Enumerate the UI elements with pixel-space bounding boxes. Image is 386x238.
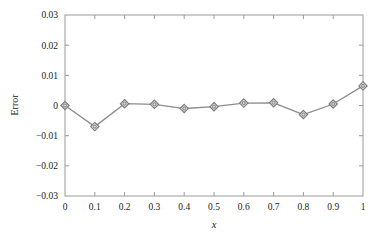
y-tick-label: 0.02 [41,41,58,51]
x-tick-label: 0 [63,202,68,212]
y-tick-label: −0.02 [36,161,58,171]
x-tick-label: 0.4 [178,202,190,212]
y-tick-label: −0.03 [36,191,58,201]
x-tick-label: 0.5 [208,202,220,212]
y-axis-title: Error [9,94,20,116]
x-tick-label: 0.2 [119,202,131,212]
y-tick-label: −0.01 [36,131,58,141]
y-tick-label: 0 [53,101,58,111]
x-tick-label: 0.1 [89,202,101,212]
x-tick-label: 0.9 [327,202,339,212]
x-tick-label: 0.7 [268,202,280,212]
y-tick-label: 0.01 [41,71,58,81]
x-tick-label: 0.3 [148,202,160,212]
x-tick-label: 1 [361,202,366,212]
x-axis-title: x [211,219,217,230]
chart-figure: 0.030.020.010−0.01−0.02−0.03 00.10.20.30… [0,0,386,238]
x-tick-label: 0.8 [297,202,309,212]
x-tick-label: 0.6 [238,202,250,212]
error-line-chart: 0.030.020.010−0.01−0.02−0.03 00.10.20.30… [0,0,386,238]
y-tick-label: 0.03 [41,10,58,20]
